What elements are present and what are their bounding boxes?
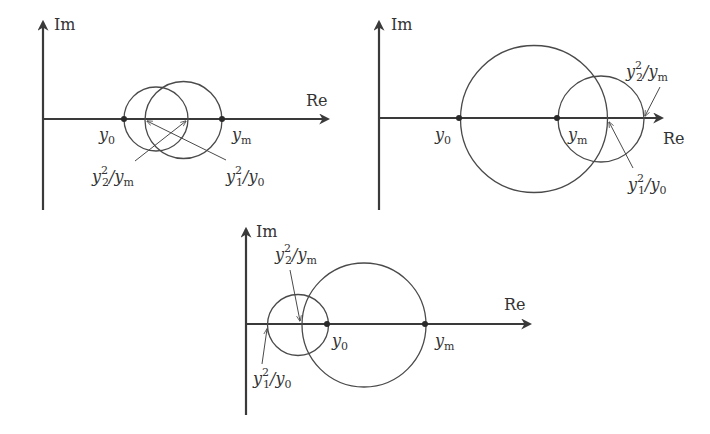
label-y2sq-over-ym: y22/ym (274, 242, 317, 267)
label-y0: y0 (434, 125, 451, 147)
pointer-y2sq-over-ym (645, 87, 660, 116)
point-ym (219, 116, 225, 122)
real-axis-label: Re (663, 129, 685, 148)
real-axis-label: Re (306, 91, 328, 110)
label-y2sq-over-ym: y22/ym (91, 164, 134, 189)
circle-diagrams-canvas: Im Re y0 ym y22/ym y21/y0 Im Re y0 ym y2… (0, 0, 710, 434)
diagram-top-right: Im Re y0 ym y22/ym y21/y0 (379, 15, 685, 210)
diagram-bottom: Im Re y0 ym y22/ym y21/y0 (246, 222, 530, 415)
imag-axis-label: Im (54, 15, 76, 34)
label-y1sq-over-y0: y21/y0 (627, 172, 666, 197)
imag-axis-label: Im (256, 222, 278, 241)
imag-axis-label: Im (391, 15, 413, 34)
label-y0: y0 (98, 125, 115, 147)
point-ym (554, 115, 560, 121)
diagram-top-left: Im Re y0 ym y22/ym y21/y0 (43, 15, 328, 210)
point-y0 (456, 115, 462, 121)
pointer-y1sq-over-y0 (262, 329, 267, 364)
label-ym: ym (231, 125, 252, 147)
label-ym: ym (434, 331, 455, 353)
pointer-y1sq-over-y0 (609, 122, 633, 168)
label-y1sq-over-y0: y21/y0 (252, 366, 291, 391)
point-y0 (324, 321, 330, 327)
point-y0 (121, 116, 127, 122)
point-ym (422, 321, 428, 327)
real-axis-label: Re (504, 295, 526, 314)
label-ym: ym (567, 125, 588, 147)
label-y0: y0 (331, 331, 348, 353)
label-y2sq-over-ym: y22/ym (625, 59, 668, 84)
label-y1sq-over-y0: y21/y0 (225, 164, 264, 189)
